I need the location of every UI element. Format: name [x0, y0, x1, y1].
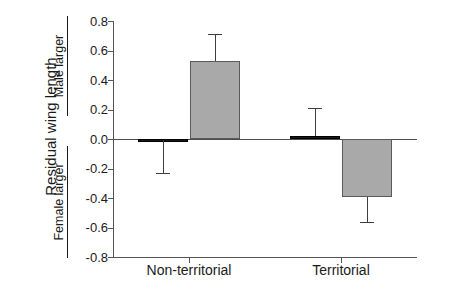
y-axis-tick-mark: [108, 80, 114, 81]
y-axis-tick-mark: [108, 51, 114, 52]
y-axis-tick-mark: [108, 257, 114, 258]
y-axis-tick-mark: [108, 228, 114, 229]
error-bar-stem: [163, 140, 164, 174]
error-bar-cap: [208, 34, 222, 35]
y-axis-tick-mark: [108, 139, 114, 140]
bar: [190, 61, 240, 139]
y-axis-tick-label: -0.2: [68, 162, 108, 175]
y-axis-tick-labels: 0.80.60.40.20.0-0.2-0.4-0.6-0.8: [63, 0, 108, 284]
y-axis-tick-label: 0.0: [68, 133, 108, 146]
y-axis-tick-mark: [108, 198, 114, 199]
error-bar-cap: [156, 173, 170, 174]
error-bar-stem: [367, 197, 368, 224]
y-axis-tick-mark: [108, 110, 114, 111]
y-axis-tick-label: 0.2: [68, 103, 108, 116]
y-axis-tick-label: 0.8: [68, 15, 108, 28]
y-axis-tick-label: 0.4: [68, 74, 108, 87]
bar: [342, 139, 392, 197]
bar: [290, 136, 340, 139]
x-axis-category-label: Territorial: [261, 262, 421, 278]
chart-figure: Residual wing length Male larger Female …: [0, 0, 459, 284]
error-bar: [360, 197, 374, 224]
error-bar-cap: [360, 222, 374, 223]
error-bar: [156, 140, 170, 174]
y-axis-tick-label: -0.8: [68, 251, 108, 264]
y-axis-tick-label: -0.6: [68, 221, 108, 234]
y-axis-tick-label: 0.6: [68, 44, 108, 57]
error-bar: [308, 108, 322, 136]
y-axis-tick-mark: [108, 21, 114, 22]
error-bar: [208, 34, 222, 61]
x-axis-line: [113, 257, 417, 258]
error-bar-stem: [315, 108, 316, 136]
error-bar-stem: [215, 34, 216, 61]
error-bar-cap: [308, 108, 322, 109]
x-axis-category-label: Non-territorial: [109, 262, 269, 278]
y-axis-tick-label: -0.4: [68, 192, 108, 205]
y-axis-tick-mark: [108, 169, 114, 170]
